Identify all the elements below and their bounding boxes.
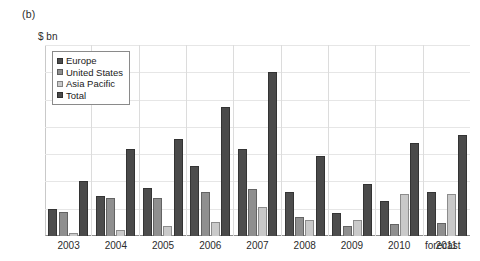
bar-group xyxy=(187,45,234,236)
bar-group xyxy=(329,45,376,236)
x-tick-label: 2007 xyxy=(234,240,281,251)
chart-legend: EuropeUnited StatesAsia PacificTotal xyxy=(52,51,130,105)
legend-item-label: Asia Pacific xyxy=(66,78,115,90)
bar xyxy=(447,194,456,236)
bar xyxy=(143,188,152,236)
bar-group xyxy=(282,45,329,236)
panel-label: (b) xyxy=(22,8,35,20)
bar xyxy=(116,230,125,236)
legend-item: Europe xyxy=(57,55,123,67)
bar xyxy=(174,139,183,236)
bar xyxy=(390,224,399,236)
bar-group xyxy=(140,45,187,236)
forecast-annotation: forecast xyxy=(425,240,461,251)
bar xyxy=(316,156,325,236)
bar xyxy=(106,198,115,236)
bar xyxy=(258,207,267,236)
bar xyxy=(458,135,467,237)
bar xyxy=(437,223,446,236)
x-tick-label: 2010 xyxy=(376,240,423,251)
x-tick-label: 2008 xyxy=(281,240,328,251)
legend-swatch-icon xyxy=(57,92,63,98)
x-tick-label: 2009 xyxy=(328,240,375,251)
bar xyxy=(153,198,162,236)
x-tick-label: 2004 xyxy=(92,240,139,251)
bar xyxy=(69,233,78,236)
x-tick-label: 2005 xyxy=(139,240,186,251)
bar xyxy=(190,166,199,236)
x-tick-label: 2006 xyxy=(187,240,234,251)
bar-group xyxy=(234,45,281,236)
bar xyxy=(343,226,352,236)
bar xyxy=(268,72,277,236)
bar xyxy=(295,217,304,236)
x-axis-tick-labels: 200320042005200620072008200920102011 xyxy=(45,240,470,251)
bar xyxy=(201,192,210,236)
bar xyxy=(126,149,135,236)
bar xyxy=(238,149,247,236)
legend-swatch-icon xyxy=(57,69,63,75)
bar-group xyxy=(376,45,423,236)
bar xyxy=(48,209,57,236)
bar xyxy=(163,226,172,236)
bar xyxy=(248,189,257,236)
bar xyxy=(79,181,88,236)
bar xyxy=(363,184,372,236)
legend-swatch-icon xyxy=(57,58,63,64)
x-tick-label: 2003 xyxy=(45,240,92,251)
legend-item-label: Total xyxy=(66,90,86,102)
bar xyxy=(332,213,341,236)
legend-item-label: United States xyxy=(66,67,123,79)
bar-group xyxy=(424,45,470,236)
bar xyxy=(380,201,389,236)
legend-item: Total xyxy=(57,90,123,102)
legend-swatch-icon xyxy=(57,81,63,87)
bar xyxy=(410,143,419,236)
bar xyxy=(221,107,230,236)
bar xyxy=(285,192,294,236)
figure-panel-b: (b) $ bn 0100200300400500600700 20032004… xyxy=(0,0,480,261)
legend-item-label: Europe xyxy=(66,55,97,67)
bar xyxy=(400,194,409,236)
bar xyxy=(96,196,105,236)
y-axis-unit-label: $ bn xyxy=(38,31,57,42)
bar xyxy=(59,212,68,236)
legend-item: United States xyxy=(57,67,123,79)
bar xyxy=(211,222,220,236)
bar xyxy=(353,220,362,236)
legend-item: Asia Pacific xyxy=(57,78,123,90)
bar xyxy=(427,192,436,236)
bar xyxy=(305,220,314,236)
